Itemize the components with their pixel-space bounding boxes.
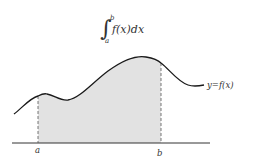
integral-diagram: y=f(x) a b ∫ b a f(x)dx bbox=[0, 0, 254, 161]
lower-limit: a bbox=[105, 37, 109, 45]
label-a: a bbox=[35, 145, 40, 155]
integrand: f(x)dx bbox=[111, 23, 145, 36]
label-b: b bbox=[157, 148, 162, 158]
area-under-curve bbox=[38, 57, 161, 143]
upper-limit: b bbox=[110, 14, 115, 22]
curve-label: y=f(x) bbox=[206, 80, 234, 90]
integral-formula: ∫ b a f(x)dx bbox=[100, 14, 145, 45]
